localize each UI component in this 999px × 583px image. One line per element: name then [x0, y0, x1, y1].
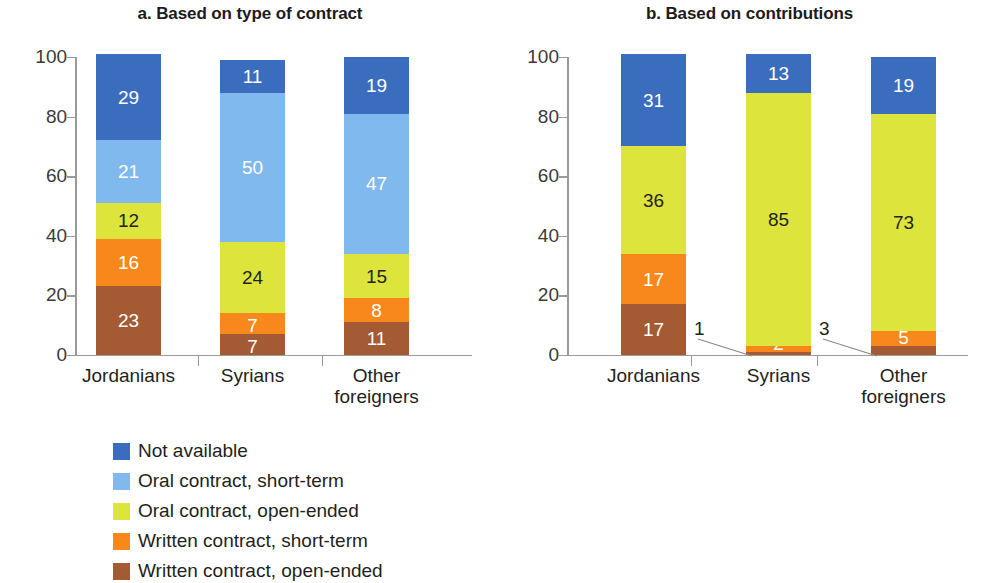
chart-b-y-axis: [567, 57, 568, 355]
chart-b-y-tick-label: 80: [538, 106, 564, 128]
chart-b-segment: 85: [746, 93, 811, 346]
chart-b-segment-value: 19: [893, 76, 914, 95]
chart-a-y-tick-label: 100: [35, 46, 72, 68]
chart-a-segment-value: 47: [366, 174, 387, 193]
chart-b-bar-other-foreigners: 57319: [871, 57, 936, 355]
chart-b-segment-value: 85: [768, 210, 789, 229]
legend-item[interactable]: Not available: [113, 436, 383, 466]
chart-a-y-tick-label: 80: [46, 106, 72, 128]
chart-b-callout-value: 3: [819, 318, 830, 340]
chart-a-x-category-label: Otherforeigners: [302, 365, 451, 408]
chart-a-segment: 15: [344, 254, 409, 299]
chart-a-segment: 12: [96, 203, 161, 239]
chart-a-segment-value: 19: [366, 76, 387, 95]
chart-panel-a: a. Based on type of contract 02040608010…: [0, 0, 500, 583]
chart-a-segment-value: 21: [118, 162, 139, 181]
chart-b-callout-value: 1: [694, 318, 705, 340]
chart-b-y-tick-label: 60: [538, 165, 564, 187]
chart-a-y-tick-label: 40: [46, 225, 72, 247]
chart-b-callout-leader-line: [819, 338, 879, 378]
chart-a-legend: Not availableOral contract, short-termOr…: [113, 436, 383, 583]
chart-a-y-tick-label: 60: [46, 165, 72, 187]
chart-b-segment-value: 36: [643, 191, 664, 210]
chart-a-segment-value: 11: [243, 67, 263, 86]
legend-swatch-icon: [113, 533, 130, 550]
chart-a-bar-syrians: 77245011: [220, 57, 285, 355]
chart-a-segment: 11: [220, 60, 285, 93]
chart-a-title: a. Based on type of contract: [0, 4, 500, 24]
legend-item[interactable]: Oral contract, short-term: [113, 466, 383, 496]
chart-b-bar-syrians: 28513: [746, 57, 811, 355]
chart-a-segment-value: 7: [247, 316, 258, 335]
chart-a-segment: 16: [96, 239, 161, 287]
legend-swatch-icon: [113, 443, 130, 460]
legend-swatch-icon: [113, 563, 130, 580]
chart-a-bar-jordanians: 2316122129: [96, 57, 161, 355]
chart-b-segment-value: 17: [643, 270, 664, 289]
legend-item-label: Written contract, short-term: [138, 530, 368, 552]
chart-a-segment-value: 29: [118, 88, 139, 107]
chart-b-segment-value: 73: [893, 213, 914, 232]
chart-a-segment: 24: [220, 242, 285, 314]
chart-a-segment-value: 7: [247, 337, 258, 356]
chart-b-segment-value: 17: [643, 320, 664, 339]
chart-a-segment-value: 50: [242, 158, 263, 177]
legend-item[interactable]: Oral contract, open-ended: [113, 496, 383, 526]
chart-a-segment-value: 15: [366, 267, 387, 286]
chart-a-bar-other-foreigners: 118154719: [344, 57, 409, 355]
chart-b-x-category-line: foreigners: [829, 386, 978, 407]
legend-item-label: Not available: [138, 440, 248, 462]
chart-a-segment-value: 24: [242, 268, 263, 287]
chart-a-segment: 7: [220, 313, 285, 334]
chart-b-plot-area: 020406080100171736312851357319: [568, 57, 968, 355]
chart-a-segment: 8: [344, 298, 409, 322]
chart-a-segment-value: 8: [371, 301, 382, 320]
chart-a-segment-value: 12: [118, 211, 139, 230]
chart-panel-b: b. Based on contributions 02040608010017…: [500, 0, 999, 583]
legend-item-label: Oral contract, open-ended: [138, 500, 359, 522]
legend-item[interactable]: Written contract, short-term: [113, 526, 383, 556]
chart-a-segment: 21: [96, 140, 161, 203]
chart-a-y-tick-label: 20: [46, 284, 72, 306]
chart-a-segment-value: 23: [118, 311, 139, 330]
chart-b-bar-jordanians: 17173631: [621, 57, 686, 355]
chart-b-segment: 36: [621, 146, 686, 253]
chart-a-y-tick-label: 0: [56, 344, 72, 366]
chart-b-title: b. Based on contributions: [500, 4, 999, 24]
legend-swatch-icon: [113, 503, 130, 520]
chart-a-segment: 29: [96, 54, 161, 140]
chart-b-segment: 17: [621, 304, 686, 355]
chart-a-segment: 11: [344, 322, 409, 355]
chart-a-segment: 50: [220, 93, 285, 242]
chart-b-segment: 19: [871, 57, 936, 114]
chart-b-y-tick-label: 20: [538, 284, 564, 306]
chart-b-segment-value: 31: [643, 91, 664, 110]
chart-b-segment: 73: [871, 114, 936, 332]
chart-b-y-tick-label: 40: [538, 225, 564, 247]
chart-a-x-category-line: Other: [302, 365, 451, 386]
chart-a-segment: 23: [96, 286, 161, 355]
legend-item-label: Written contract, open-ended: [138, 560, 383, 582]
chart-a-x-category-line: foreigners: [302, 386, 451, 407]
legend-swatch-icon: [113, 473, 130, 490]
chart-b-y-tick-label: 100: [527, 46, 564, 68]
chart-a-plot-area: 020406080100231612212977245011118154719: [76, 57, 472, 355]
chart-a-segment: 19: [344, 57, 409, 114]
chart-b-segment: 13: [746, 54, 811, 93]
chart-a-segment-value: 16: [118, 253, 139, 272]
chart-a-segment-value: 11: [367, 329, 387, 348]
chart-b-segment-value: 13: [768, 64, 789, 83]
legend-item[interactable]: Written contract, open-ended: [113, 556, 383, 583]
chart-a-segment: 7: [220, 334, 285, 355]
chart-a-y-axis: [75, 57, 76, 355]
chart-a-segment: 47: [344, 114, 409, 254]
chart-b-segment: 5: [871, 331, 936, 346]
legend-item-label: Oral contract, short-term: [138, 470, 344, 492]
chart-b-segment: 2: [746, 346, 811, 352]
chart-b-segment: 17: [621, 254, 686, 305]
chart-b-segment: 31: [621, 54, 686, 146]
chart-b-y-tick-label: 0: [548, 344, 564, 366]
chart-b-callout-leader-line: [694, 338, 754, 378]
